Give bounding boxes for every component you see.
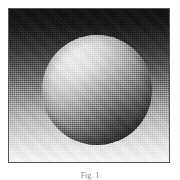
sphere-rim-darkening bbox=[42, 35, 152, 145]
figure-caption-text: Fig. 1 bbox=[81, 171, 100, 180]
image-plate bbox=[8, 8, 170, 163]
figure-root: Fig. 1 bbox=[0, 0, 180, 180]
figure-caption: Fig. 1 bbox=[0, 168, 180, 180]
shaded-sphere bbox=[42, 35, 152, 145]
